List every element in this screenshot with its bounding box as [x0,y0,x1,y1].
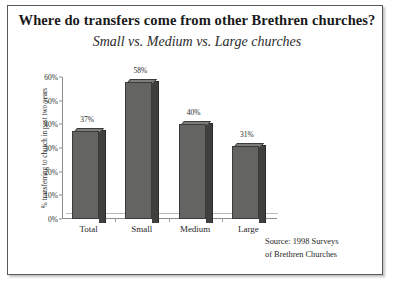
y-tick-mark [59,171,62,172]
bar-front-face [179,124,206,219]
x-tick-label-total: Total [79,224,97,234]
bar-value-label: 40% [187,108,201,117]
bar-front-face [125,82,152,219]
y-tick-mark [59,195,62,196]
bar-value-label: 31% [240,130,254,139]
bar-side-face [259,145,266,223]
bar-front-face [232,146,259,219]
x-tick-label-large: Large [238,224,259,234]
y-tick-mark [59,77,62,78]
chart-subtitle: Small vs. Medium vs. Large churches [0,34,394,50]
source-line-1: Source: 1998 Surveys [265,236,375,249]
bar-large: 31% [232,146,259,219]
bar-side-face [152,81,159,223]
bar-side-face [99,130,106,223]
y-tick-mark [59,124,62,125]
x-tick-label-small: Small [131,224,152,234]
y-tick-mark [59,148,62,149]
source-line-2: of Brethren Churches [265,249,375,262]
bar-value-label: 58% [133,66,147,75]
source-note: Source: 1998 Surveys of Brethren Churche… [265,236,375,261]
plot-area: % transferring to church in past two yea… [62,77,275,219]
x-tick-mark [222,218,223,222]
y-tick-mark [59,219,62,220]
chart-title: Where do transfers come from other Breth… [0,12,394,29]
bar-total: 37% [72,131,99,219]
bar-side-face [206,123,213,223]
chart-figure: Where do transfers come from other Breth… [0,0,394,288]
bar-value-label: 37% [80,115,94,124]
x-tick-mark [115,218,116,222]
y-tick-mark [59,100,62,101]
bar-medium: 40% [179,124,206,219]
bar-front-face [72,131,99,219]
bar-small: 58% [125,82,152,219]
x-tick-label-medium: Medium [180,224,211,234]
x-tick-mark [169,218,170,222]
